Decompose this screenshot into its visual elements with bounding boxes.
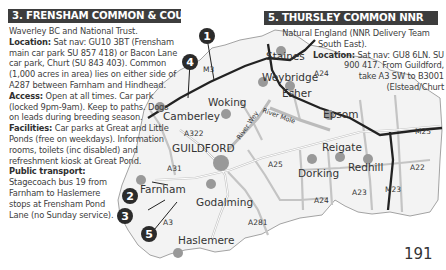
- thursley-owner-line2: South East).: [282, 39, 444, 50]
- access-label: Access:: [9, 91, 43, 101]
- svg-text:A25: A25: [268, 160, 283, 169]
- svg-text:M25: M25: [415, 127, 431, 136]
- svg-text:4: 4: [186, 56, 194, 69]
- thursley-location-line4: (Elstead/Churt: [282, 82, 444, 93]
- svg-text:5: 5: [145, 228, 153, 241]
- svg-text:Redhill: Redhill: [348, 161, 383, 173]
- svg-text:M23: M23: [385, 185, 401, 194]
- svg-text:A281: A281: [248, 218, 268, 227]
- svg-text:A22: A22: [410, 163, 425, 172]
- svg-text:Dorking: Dorking: [298, 167, 339, 179]
- facilities-label: Facilities:: [9, 123, 52, 133]
- svg-text:Godalming: Godalming: [196, 196, 253, 208]
- transport-label: Public transport:: [9, 166, 85, 176]
- thursley-location-line1: Location: Sat nav: GU8 6LN. SU: [282, 50, 444, 61]
- thursley-owner-line1: Natural England (NNR Delivery Team: [282, 28, 444, 39]
- frensham-transport: Stagecoach bus 19 from Farnham to Haslem…: [9, 177, 121, 220]
- svg-text:A23: A23: [352, 188, 367, 197]
- svg-text:Haslemere: Haslemere: [178, 234, 234, 246]
- frensham-description: Waverley BC and National Trust. Location…: [9, 26, 179, 220]
- location-label: Location:: [9, 37, 51, 47]
- thursley-location-line2: 900 417. From Guildford,: [282, 60, 444, 71]
- frensham-owner: Waverley BC and National Trust.: [9, 26, 138, 36]
- svg-text:Epsom: Epsom: [323, 108, 358, 120]
- thursley-location-line3: take A3 SW to B3001: [282, 71, 444, 82]
- svg-text:A24: A24: [314, 196, 329, 205]
- page-number: 191: [404, 245, 433, 263]
- svg-text:GUILDFORD: GUILDFORD: [172, 142, 235, 154]
- svg-text:Reigate: Reigate: [322, 141, 362, 153]
- svg-text:Woking: Woking: [208, 96, 247, 108]
- svg-text:A322: A322: [184, 129, 204, 138]
- location-label: Location:: [313, 50, 355, 60]
- thursley-description: Natural England (NNR Delivery Team South…: [282, 28, 444, 93]
- section-heading-thursley: 5. THURSLEY COMMON NNR: [264, 11, 438, 25]
- svg-text:1: 1: [203, 30, 211, 43]
- section-heading-frensham: 3. FRENSHAM COMMON & COUNTRY PARK: [8, 9, 181, 23]
